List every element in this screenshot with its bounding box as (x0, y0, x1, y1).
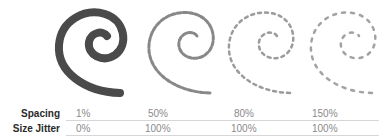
table-row-spacing: Spacing 1% 50% 80% 150% (0, 106, 387, 121)
spiral-illustrations (0, 0, 387, 104)
settings-table: Spacing 1% 50% 80% 150% Size Jitter 0% 1… (0, 106, 387, 136)
cell-value: 100% (145, 123, 171, 134)
cell-value: 150% (312, 108, 338, 119)
cell-value: 50% (148, 108, 168, 119)
table-row-size-jitter: Size Jitter 0% 100% 100% 100% (0, 121, 387, 136)
solid-spiral-icon (45, 0, 135, 100)
cell-value: 80% (234, 108, 254, 119)
cell-value: 100% (312, 123, 338, 134)
dashed-spiral-icon (135, 0, 225, 100)
row-label: Size Jitter (13, 123, 60, 134)
row-label: Spacing (21, 108, 60, 119)
sparse-spiral-icon (297, 0, 387, 100)
cell-value: 1% (76, 108, 90, 119)
divider (66, 135, 379, 136)
dotted-spiral-icon (215, 0, 305, 100)
cell-value: 100% (231, 123, 257, 134)
cell-value: 0% (76, 123, 90, 134)
